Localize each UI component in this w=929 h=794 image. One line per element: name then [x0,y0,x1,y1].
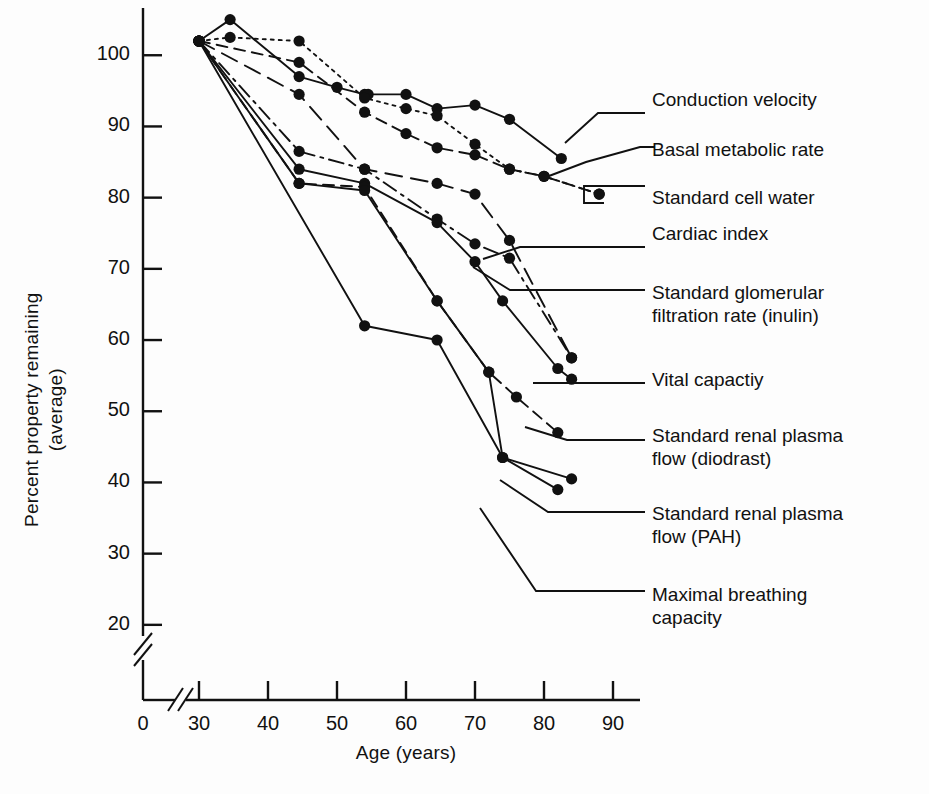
y-tick-label-70: 70 [70,256,130,279]
data-point [225,14,236,25]
data-point [294,71,305,82]
legend-callout-line-6 [525,427,645,440]
data-points [193,14,604,495]
data-series [199,20,599,490]
data-point [504,114,515,125]
data-point [359,107,370,118]
data-point [432,110,443,121]
data-point [566,473,577,484]
data-point [483,367,494,378]
data-point [359,164,370,175]
y-tick-label-80: 80 [70,185,130,208]
y-axis-title-line-2: (average) [44,270,68,550]
data-point [469,149,480,160]
data-point [193,35,204,46]
data-point [469,100,480,111]
data-point [432,142,443,153]
data-point [400,103,411,114]
legend-item-8[interactable]: Maximal breathing capacity [652,583,807,629]
y-tick-label-40: 40 [70,469,130,492]
legend-callout-line-0 [565,113,645,143]
legend-item-6[interactable]: Standard renal plasma flow (diodrast) [652,424,843,470]
x-tick-label-80: 80 [524,712,564,735]
data-point [556,153,567,164]
data-point [432,178,443,189]
chart-canvas [0,0,929,794]
data-point [294,146,305,157]
legend-callout-lines [473,113,655,591]
x-tick-label-90: 90 [593,712,633,735]
y-tick-label-100: 100 [70,42,130,65]
data-point [294,57,305,68]
x-tick-label-30: 30 [179,712,219,735]
legend-item-3[interactable]: Cardiac index [652,222,768,245]
data-point [469,139,480,150]
legend-callout-line-8 [480,508,645,591]
data-point [432,295,443,306]
legend-item-0[interactable]: Conduction velocity [652,88,817,111]
y-tick-label-60: 60 [70,327,130,350]
data-point [504,235,515,246]
x-tick-label-70: 70 [455,712,495,735]
data-point [497,452,508,463]
data-point [294,178,305,189]
data-point [359,92,370,103]
data-point [504,164,515,175]
data-point [469,189,480,200]
chart-figure: Percent property remaining(average) Age … [0,0,929,794]
data-point [552,484,563,495]
series-line-6 [199,41,558,433]
data-point [538,171,549,182]
data-point [432,217,443,228]
legend-item-7[interactable]: Standard renal plasma flow (PAH) [652,502,843,548]
data-point [504,253,515,264]
series-line-7 [199,41,572,479]
y-axis-title-line-1: Percent property remaining [20,270,44,550]
x-tick-label-50: 50 [317,712,357,735]
x-tick-label-0: 0 [123,712,163,735]
data-point [294,164,305,175]
x-axis-title: Age (years) [256,742,556,764]
data-point [359,185,370,196]
legend-callout-line-4 [473,267,645,290]
axis-ticks [143,55,613,700]
data-point [400,128,411,139]
x-tick-label-40: 40 [248,712,288,735]
y-tick-label-30: 30 [70,541,130,564]
data-point [469,238,480,249]
y-tick-label-90: 90 [70,113,130,136]
series-line-3 [199,41,572,358]
y-axis-title: Percent property remaining(average) [20,270,68,550]
data-point [594,189,605,200]
y-tick-label-20: 20 [70,612,130,635]
data-point [294,89,305,100]
series-line-4 [199,41,572,358]
data-point [432,334,443,345]
x-tick-label-60: 60 [386,712,426,735]
axis-lines [134,8,640,711]
data-point [469,256,480,267]
y-tick-label-50: 50 [70,398,130,421]
data-point [331,82,342,93]
legend-callout-line-2 [584,186,645,203]
data-point [552,363,563,374]
series-line-5 [199,41,572,379]
legend-item-5[interactable]: Vital capactiy [652,368,764,391]
legend-item-4[interactable]: Standard glomerular filtration rate (inu… [652,281,824,327]
data-point [400,89,411,100]
data-point [294,35,305,46]
data-point [566,352,577,363]
data-point [511,391,522,402]
legend-item-2[interactable]: Standard cell water [652,186,815,209]
data-point [225,32,236,43]
legend-callout-line-7 [500,480,645,512]
data-point [497,295,508,306]
series-line-0 [199,20,561,159]
data-point [359,320,370,331]
legend-item-1[interactable]: Basal metabolic rate [652,138,824,161]
series-line-8 [199,41,558,490]
series-line-1 [199,37,599,194]
